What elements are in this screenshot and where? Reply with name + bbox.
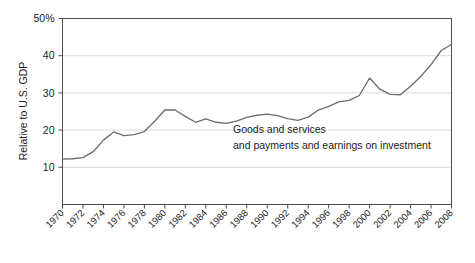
- y-axis-tick-label: 30: [43, 87, 55, 99]
- line-chart-figure: 1020304050% 1970197219741976197819801982…: [0, 0, 475, 263]
- chart-svg: 1020304050% 1970197219741976197819801982…: [0, 0, 475, 263]
- y-axis-tick-label: 40: [43, 49, 55, 61]
- series-annotation-line-2: and payments and earnings on investment: [233, 139, 431, 151]
- y-axis-tick-label: 20: [43, 124, 55, 136]
- y-axis-tick-label: 10: [43, 161, 55, 173]
- y-axis-title: Relative to U.S. GDP: [17, 62, 29, 161]
- y-axis-tick-label: 50%: [33, 12, 54, 24]
- series-annotation-line-1: Goods and services: [233, 123, 326, 135]
